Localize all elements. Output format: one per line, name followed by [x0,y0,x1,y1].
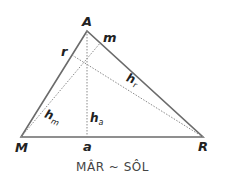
vertex-a-label: A [82,15,92,28]
foot-a-label: a [83,140,92,153]
vertex-m-label: M [15,141,28,154]
foot-r-label: r [61,45,67,58]
altitude-ha-label: ha [90,112,103,127]
foot-m-label: m [103,31,117,44]
vertex-r-label: R [198,140,208,153]
triangle-diagram [0,0,225,187]
similarity-caption: MÂR ~ SÔL [0,160,225,174]
